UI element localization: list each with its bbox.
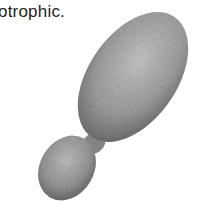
bilobed-shape-figure: [0, 0, 198, 208]
